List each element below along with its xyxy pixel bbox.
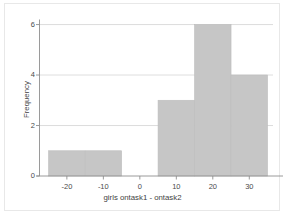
x-tick-label: 0 bbox=[126, 182, 154, 191]
x-axis-label: girls ontask1 - ontask2 bbox=[0, 193, 285, 202]
histogram-bar bbox=[195, 25, 231, 176]
bars-group bbox=[49, 25, 268, 176]
y-tick-label: 2 bbox=[20, 121, 35, 130]
y-axis-label: Frequency bbox=[22, 81, 31, 118]
histogram-bar bbox=[158, 100, 194, 176]
x-tick-label: 30 bbox=[235, 182, 263, 191]
y-tick-label: 0 bbox=[20, 171, 35, 180]
x-tick-label: -20 bbox=[53, 182, 81, 191]
x-tick-label: -10 bbox=[89, 182, 117, 191]
histogram-bar bbox=[231, 75, 267, 176]
histogram-figure: 0246 -20-100102030 girls ontask1 - ontas… bbox=[0, 0, 285, 216]
y-tick-label: 4 bbox=[20, 70, 35, 79]
y-tick-label: 6 bbox=[20, 20, 35, 29]
x-tick-label: 20 bbox=[199, 182, 227, 191]
x-tick-label: 10 bbox=[162, 182, 190, 191]
